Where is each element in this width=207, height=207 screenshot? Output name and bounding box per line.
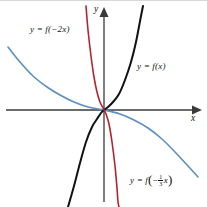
y-axis-label: y	[94, 4, 98, 14]
label-minus-sign: −	[153, 175, 158, 185]
fraction-one-third: 13	[158, 174, 163, 187]
label-f-x: y = f(x)	[137, 61, 166, 71]
x-axis-label: x	[191, 113, 195, 123]
label-f-neg-third-x-prefix: y = f	[130, 175, 148, 185]
label-open-paren: (	[148, 172, 153, 187]
curve-f-neg-2x	[86, 6, 119, 207]
label-f-neg-2x: y = f(−2x)	[30, 24, 70, 34]
y-axis-arrowhead	[100, 7, 109, 17]
label-f-neg-third-x: y = f(−13x)	[130, 174, 172, 187]
fraction-denominator: 3	[158, 180, 163, 187]
label-close-paren: )	[168, 172, 173, 187]
graph-figure: y x y = f(−2x) y = f(x) y = f(−13x)	[0, 0, 207, 207]
